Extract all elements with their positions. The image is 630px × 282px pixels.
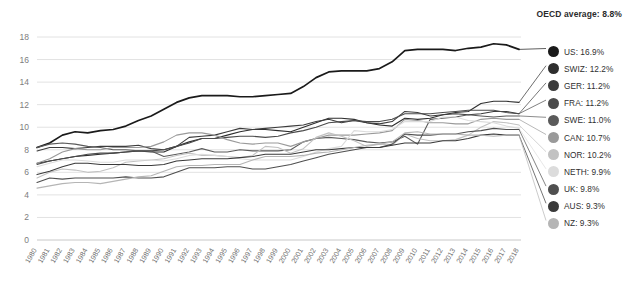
legend-item-swiz[interactable]: SWIZ: 12.2%: [548, 60, 630, 77]
legend-swatch-icon: [548, 166, 559, 177]
x-axis-tick-label: 2003: [315, 247, 331, 265]
x-axis-tick-label: 1986: [99, 247, 115, 265]
legend-label: CAN: 10.7%: [564, 133, 610, 143]
leader-line-fra: [519, 100, 546, 114]
x-axis-tick-label: 2006: [353, 247, 369, 265]
x-axis-tick-label: 1985: [86, 247, 102, 265]
legend-label: FRA: 11.2%: [564, 98, 609, 108]
y-axis-tick-label: 8: [24, 145, 29, 155]
legend: US: 16.9%SWIZ: 12.2%GER: 11.2%FRA: 11.2%…: [548, 43, 630, 232]
x-axis-tick-label: 1993: [188, 247, 204, 265]
x-axis-tick-label: 2010: [403, 247, 419, 265]
leader-line-swiz: [519, 66, 546, 103]
x-axis-tick-label: 2013: [442, 247, 458, 265]
x-axis-tick-label: 2009: [391, 247, 407, 265]
y-axis-tick-label: 14: [20, 77, 30, 87]
leader-lines-group: [519, 49, 546, 221]
y-axis-tick-label: 6: [24, 167, 29, 177]
x-axis-tick-label: 1981: [36, 247, 52, 265]
y-axis-tick-label: 18: [20, 32, 30, 42]
legend-item-can[interactable]: CAN: 10.7%: [548, 129, 630, 146]
x-axis-tick-label: 2007: [365, 247, 381, 265]
x-axis-tick-label: 1994: [201, 247, 217, 265]
legend-swatch-icon: [548, 46, 559, 57]
x-axis-tick-label: 1982: [48, 247, 64, 265]
x-axis-tick-label: 2000: [277, 247, 293, 265]
legend-label: AUS: 9.3%: [564, 201, 605, 211]
x-axis-tick-label: 1995: [213, 247, 229, 265]
line-chart: 024681012141618 198019811982198319841985…: [0, 0, 630, 282]
x-axis-tick-label: 1980: [23, 247, 39, 265]
gridlines-group: [37, 37, 521, 240]
legend-label: SWE: 11.0%: [564, 115, 611, 125]
y-axis-tick-label: 2: [24, 212, 29, 222]
x-axis-tick-label: 2001: [289, 247, 305, 265]
legend-label: GER: 11.2%: [564, 81, 610, 91]
x-axis-tick-label: 2004: [327, 247, 343, 265]
legend-swatch-icon: [548, 149, 559, 160]
x-axis-tick-label: 2016: [480, 247, 496, 265]
x-axis-tick-label: 2018: [505, 247, 521, 265]
x-axis-tick-label: 1992: [175, 247, 191, 265]
leader-line-ger: [519, 83, 546, 114]
x-axis-tick-label: 1987: [112, 247, 128, 265]
y-axis-tick-label: 10: [20, 122, 30, 132]
x-axis-tick-label: 1990: [150, 247, 166, 265]
leader-line-can: [519, 119, 546, 134]
y-axis-tick-label: 12: [20, 100, 30, 110]
leader-line-aus: [519, 135, 546, 203]
legend-item-nor[interactable]: NOR: 10.2%: [548, 146, 630, 163]
x-axis-tick-label: 1983: [61, 247, 77, 265]
legend-label: SWIZ: 12.2%: [564, 64, 613, 74]
legend-swatch-icon: [548, 115, 559, 126]
legend-label: NETH: 9.9%: [564, 167, 611, 177]
x-axis-tick-label: 2005: [340, 247, 356, 265]
leader-line-us: [519, 49, 546, 50]
legend-swatch-icon: [548, 132, 559, 143]
x-axis-tick-label: 2012: [429, 247, 445, 265]
legend-item-swe[interactable]: SWE: 11.0%: [548, 112, 630, 129]
x-axis-tick-label: 1999: [264, 247, 280, 265]
legend-item-neth[interactable]: NETH: 9.9%: [548, 163, 630, 180]
chart-page: OECD average: 8.8% 024681012141618 19801…: [0, 0, 630, 282]
legend-label: UK: 9.8%: [564, 184, 599, 194]
legend-swatch-icon: [548, 98, 559, 109]
legend-swatch-icon: [548, 201, 559, 212]
legend-item-fra[interactable]: FRA: 11.2%: [548, 95, 630, 112]
y-axis-tick-label: 16: [20, 55, 30, 65]
x-axis-tick-label: 1991: [162, 247, 178, 265]
x-axis-tick-label: 2017: [492, 247, 508, 265]
legend-label: NZ: 9.3%: [564, 218, 599, 228]
x-axis-tick-label: 1984: [74, 247, 90, 265]
y-axis-tick-label: 0: [24, 235, 29, 245]
x-axis-tick-label: 1989: [137, 247, 153, 265]
x-axis-tick-label: 1988: [124, 247, 140, 265]
legend-label: US: 16.9%: [564, 47, 604, 57]
y-axis-tick-label: 4: [24, 190, 29, 200]
legend-swatch-icon: [548, 218, 559, 229]
series-group: [37, 44, 519, 188]
legend-item-aus[interactable]: AUS: 9.3%: [548, 198, 630, 215]
legend-swatch-icon: [548, 184, 559, 195]
x-axis-tick-label: 2002: [302, 247, 318, 265]
x-axis-tick-label: 2008: [378, 247, 394, 265]
x-axis-tick-label: 2015: [467, 247, 483, 265]
leader-line-swe: [519, 116, 546, 117]
x-axis-tick-label: 1996: [226, 247, 242, 265]
legend-label: NOR: 10.2%: [564, 150, 611, 160]
legend-swatch-icon: [548, 80, 559, 91]
x-axis-tick-label: 1998: [251, 247, 267, 265]
legend-swatch-icon: [548, 63, 559, 74]
x-axis-ticks: 1980198119821983198419851986198719881989…: [23, 247, 521, 265]
legend-item-uk[interactable]: UK: 9.8%: [548, 181, 630, 198]
legend-item-ger[interactable]: GER: 11.2%: [548, 77, 630, 94]
y-axis-ticks: 024681012141618: [20, 32, 30, 245]
x-axis-tick-label: 2014: [454, 247, 470, 265]
x-axis-tick-label: 1997: [239, 247, 255, 265]
legend-item-nz[interactable]: NZ: 9.3%: [548, 215, 630, 232]
series-line-neth: [37, 117, 519, 167]
legend-item-us[interactable]: US: 16.9%: [548, 43, 630, 60]
